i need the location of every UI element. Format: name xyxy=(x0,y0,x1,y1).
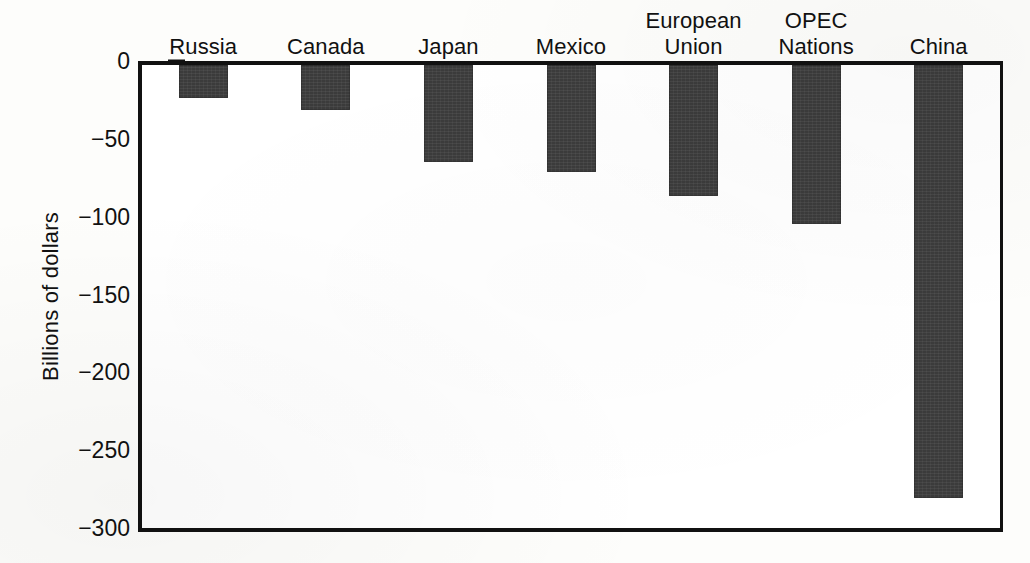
bar[interactable]: Japan xyxy=(424,65,473,162)
bar[interactable]: China xyxy=(914,65,963,498)
y-tick-label: −300 xyxy=(46,515,130,542)
y-tick-label: −100 xyxy=(46,203,130,230)
category-label: Mexico xyxy=(536,34,606,65)
category-label: Canada xyxy=(287,34,365,65)
category-label: Russia xyxy=(169,34,237,65)
y-tick-label: −50 xyxy=(46,125,130,152)
plot-area: RussiaCanadaJapanMexicoEuropean UnionOPE… xyxy=(138,61,1003,532)
bar[interactable]: Canada xyxy=(301,65,350,110)
category-label: China xyxy=(910,34,968,65)
bar[interactable]: Mexico xyxy=(547,65,596,172)
y-axis-tick-labels: 0−50−100−150−200−250−300 xyxy=(46,0,130,563)
y-tick-label: −150 xyxy=(46,281,130,308)
category-label: Japan xyxy=(418,34,478,65)
category-label: OPEC Nations xyxy=(778,8,853,65)
bar[interactable]: European Union xyxy=(669,65,718,196)
y-tick-label: −200 xyxy=(46,359,130,386)
bar[interactable]: OPEC Nations xyxy=(792,65,841,224)
y-tick-label: −250 xyxy=(46,437,130,464)
category-label: European Union xyxy=(645,8,741,65)
chart-figure: Billions of dollars 0−50−100−150−200−250… xyxy=(0,0,1030,563)
bar[interactable]: Russia xyxy=(179,65,228,98)
y-tick-label: 0 xyxy=(46,48,130,75)
